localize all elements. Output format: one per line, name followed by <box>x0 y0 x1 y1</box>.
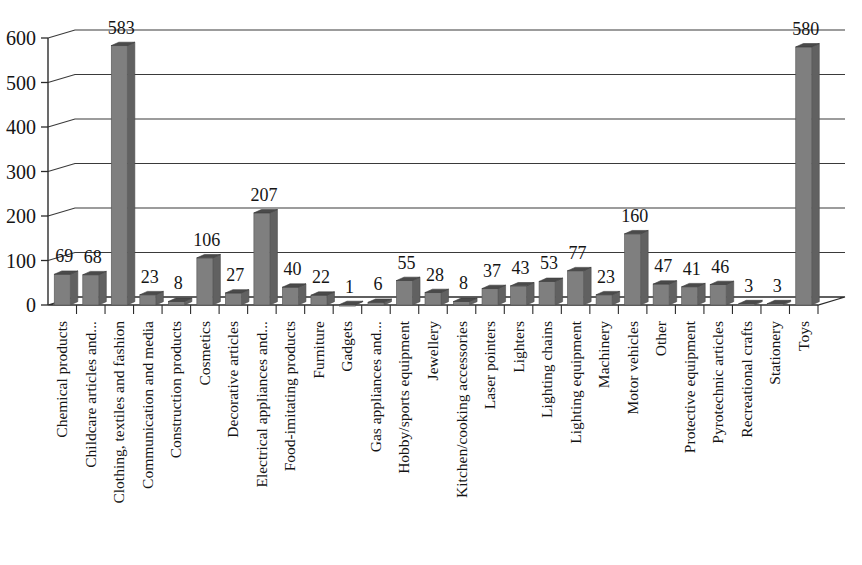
x-axis-category-label: Clothing, textiles and fashion <box>110 321 127 504</box>
x-axis-category-label: Lighters <box>510 321 527 373</box>
x-axis-category-label: Kitchen/cooking accessories <box>453 321 470 498</box>
x-axis-category-label: Machinery <box>595 321 612 388</box>
bar-value-label: 106 <box>193 230 220 250</box>
bar-value-label: 580 <box>792 19 819 39</box>
bar-12 <box>368 302 384 305</box>
bar-value-label: 68 <box>84 247 102 267</box>
chart-canvas: 0100200300400500600 69685832381062720740… <box>0 0 862 565</box>
x-axis-category-label: Childcare articles and... <box>82 321 99 468</box>
bar-value-label: 47 <box>654 256 672 276</box>
bar-side-face <box>412 277 420 305</box>
x-axis-category-label: Recreational crafts <box>738 321 755 438</box>
bar-value-label: 69 <box>55 246 73 266</box>
y-tick-labels-group: 0100200300400500600 <box>6 27 48 316</box>
bar-1 <box>54 274 70 305</box>
bar-value-label: 3 <box>773 276 782 296</box>
bar-13 <box>396 281 412 305</box>
bar-15 <box>454 301 470 305</box>
bar-27 <box>796 47 812 305</box>
x-axis-category-label: Jewellery <box>424 321 441 381</box>
bar-value-label: 8 <box>174 273 183 293</box>
bar-22 <box>653 284 669 305</box>
x-axis-category-label: Chemical products <box>53 321 70 438</box>
bar-24 <box>710 285 726 305</box>
x-axis-category-label: Motor vehicles <box>624 321 641 414</box>
bar-value-label: 37 <box>483 261 501 281</box>
x-axis-category-label: Laser pointers <box>481 321 498 409</box>
bar-value-label: 23 <box>141 267 159 287</box>
bar-value-label: 43 <box>512 258 530 278</box>
bar-side-face <box>127 42 135 305</box>
bar-side-face <box>527 283 535 305</box>
bar-side-face <box>812 44 820 305</box>
y-axis-tick-label: 200 <box>6 205 36 227</box>
bar-value-label: 77 <box>569 243 587 263</box>
bar-23 <box>682 287 698 305</box>
gridline-200 <box>48 208 845 216</box>
bar-14 <box>425 293 441 305</box>
bar-16 <box>482 289 498 305</box>
bar-21 <box>625 234 641 305</box>
gridline-600 <box>48 30 845 38</box>
x-axis-category-label: Stationery <box>766 321 783 385</box>
bar-side-face <box>726 281 734 305</box>
bar-value-label: 8 <box>459 273 468 293</box>
bar-value-label: 6 <box>373 274 382 294</box>
gridline-400 <box>48 119 845 127</box>
bar-side-face <box>698 283 706 305</box>
x-axis-category-label: Protective equipment <box>681 320 698 453</box>
bar-value-label: 23 <box>597 267 615 287</box>
bar-6 <box>197 258 213 305</box>
x-axis-category-label: Hobby/sports equipment <box>395 320 412 474</box>
x-axis-category-label: Toys <box>795 321 812 351</box>
x-axis-category-label: Pyrotechnic articles <box>709 321 726 444</box>
bar-side-face <box>584 267 592 305</box>
x-axis-category-label: Construction products <box>167 321 184 458</box>
bar-value-label: 583 <box>108 18 135 38</box>
bar-value-label: 55 <box>397 253 415 273</box>
gridline-500 <box>48 75 845 83</box>
bar-18 <box>539 281 555 305</box>
bar-17 <box>511 286 527 305</box>
bar-2 <box>83 275 99 305</box>
y-axis-tick-label: 500 <box>6 72 36 94</box>
bar-side-face <box>641 230 649 305</box>
y-axis-tick-label: 400 <box>6 116 36 138</box>
bar-side-face <box>555 278 563 305</box>
x-axis-category-label: Food-imitating products <box>281 321 298 471</box>
bar-10 <box>311 295 327 305</box>
bar-3 <box>111 46 127 305</box>
bar-side-face <box>669 281 677 305</box>
x-axis-category-label: Electrical appliances and... <box>253 321 270 488</box>
bar-side-face <box>99 271 107 305</box>
bar-value-label: 3 <box>744 276 753 296</box>
bar-7 <box>225 293 241 305</box>
y-axis-tick-label: 0 <box>26 294 36 316</box>
bar-19 <box>568 271 584 305</box>
bar-value-label: 41 <box>683 259 701 279</box>
bar-20 <box>596 295 612 305</box>
bar-value-label: 160 <box>621 206 648 226</box>
x-axis-category-label: Gas appliances and... <box>367 321 384 452</box>
x-axis-category-label: Furniture <box>310 321 327 379</box>
bar-4 <box>140 295 156 305</box>
bar-value-label: 40 <box>283 259 301 279</box>
x-tick-marks-group <box>77 305 818 314</box>
bar-8 <box>254 213 270 305</box>
y-axis-tick-label: 600 <box>6 27 36 49</box>
bar-side-face <box>213 254 221 305</box>
bar-value-label: 27 <box>226 265 244 285</box>
y-axis-tick-label: 100 <box>6 250 36 272</box>
bar-chart-figure: 0100200300400500600 69685832381062720740… <box>0 0 862 565</box>
x-axis-category-label: Gadgets <box>338 321 355 372</box>
bar-value-label: 207 <box>250 185 277 205</box>
bar-9 <box>282 287 298 305</box>
y-axis-tick-label: 300 <box>6 161 36 183</box>
bar-value-label: 53 <box>540 253 558 273</box>
bar-side-face <box>70 271 78 305</box>
bar-value-label: 28 <box>426 265 444 285</box>
x-axis-category-label: Other <box>652 320 669 356</box>
category-labels-group: Chemical productsChildcare articles and.… <box>53 320 811 503</box>
bar-value-label: 46 <box>711 257 729 277</box>
gridline-300 <box>48 164 845 172</box>
